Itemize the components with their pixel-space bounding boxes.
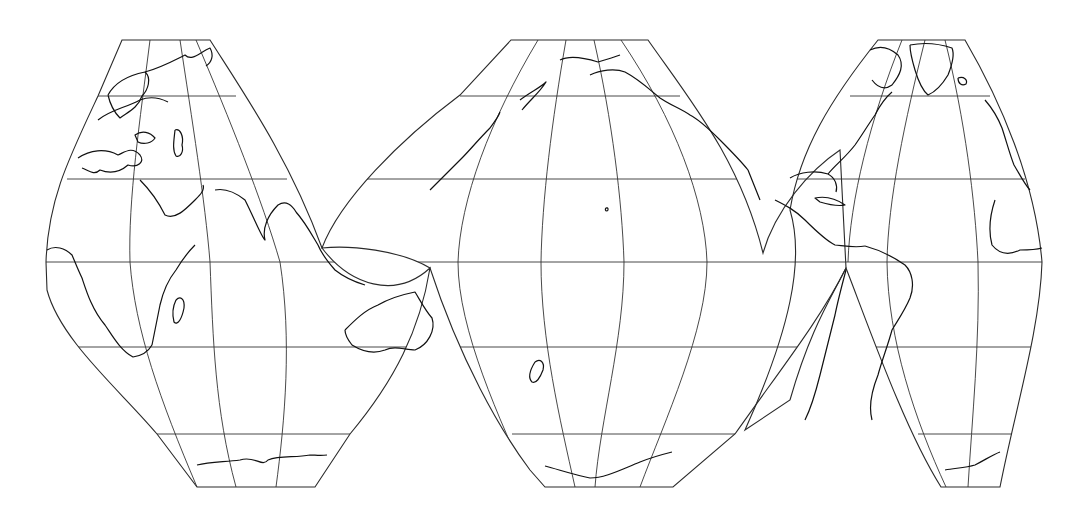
world-map [0,0,1075,516]
meridian-line [594,40,624,487]
coastlines [47,44,1042,478]
coastline-mediterranean [78,150,142,172]
coastline-siberia-coast [145,48,212,72]
meridian-line [887,40,946,487]
graticule [322,40,846,487]
lobe-pacific [322,40,846,487]
coastline-madagascar [173,298,184,323]
graticule [790,40,1042,487]
coastline-west-africa [990,200,1042,253]
coastline-caspian [174,130,183,157]
coastline-antarctica-middle [545,452,672,478]
coastline-south-america-west [805,270,846,420]
lobe-outline [46,40,430,487]
map-lobes [46,40,1042,487]
meridian-line [180,40,236,487]
coastline-alaska-west [560,55,620,62]
coastline-gulf-of-mexico [790,172,837,192]
coastline-cuba [815,197,845,205]
meridian-line [945,40,978,487]
coastline-south-america [865,246,912,420]
coastline-north-america-east [828,92,892,174]
coastline-europe-west [985,100,1030,190]
lobe-eurasia-africa [46,40,430,487]
coastline-africa-east [152,245,195,345]
meridian-line [848,40,902,262]
coastline-india [215,189,296,240]
coastline-antarctica-left [197,455,327,465]
meridian-line [541,40,575,487]
meridian-line [458,40,538,487]
coastline-hawaii [605,208,608,211]
coastline-australia [345,292,433,352]
coastline-pacific-nw [720,140,760,200]
coastline-arabia [140,180,203,216]
coastline-africa-west [47,248,152,357]
meridian-line [130,40,197,487]
coastline-japan [430,112,500,190]
coastline-iceland [958,77,967,84]
lobe-outline [322,40,846,487]
coastline-greenland [910,44,953,95]
lobe-outline [745,40,1042,487]
coastline-canada-arctic [870,48,901,88]
graticule [46,40,430,487]
coastline-alaska [590,70,720,140]
coastline-new-zealand [530,360,544,382]
meridian-line [621,40,707,487]
coastline-antarctica-right [945,452,1000,470]
coastline-southeast-asia [296,212,365,285]
meridian-line [196,40,286,487]
lobe-americas-atlantic [745,40,1042,487]
